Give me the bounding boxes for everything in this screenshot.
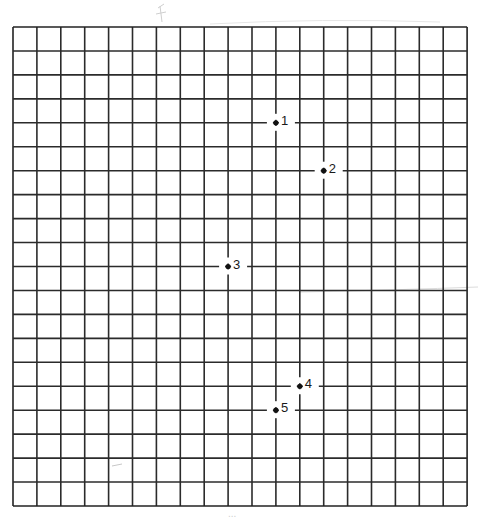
point-dot-icon bbox=[273, 120, 278, 125]
point-dot-icon bbox=[226, 264, 231, 269]
point-label: 2 bbox=[329, 161, 336, 176]
pencil-mark bbox=[210, 20, 440, 24]
point-label: 1 bbox=[281, 113, 288, 128]
footer-faint-text: ... bbox=[228, 508, 236, 519]
grid-figure: 12345 ... bbox=[0, 0, 481, 519]
pencil-mark bbox=[112, 464, 122, 466]
grid-canvas: 12345 ... bbox=[0, 0, 481, 519]
point-label: 5 bbox=[281, 400, 288, 415]
point-dot-icon bbox=[273, 408, 278, 413]
point-dot-icon bbox=[321, 168, 326, 173]
point-label: 3 bbox=[233, 257, 240, 272]
point-dot-icon bbox=[297, 384, 302, 389]
point-label: 4 bbox=[305, 376, 312, 391]
pencil-mark bbox=[156, 4, 166, 22]
faint-pencil-marks bbox=[112, 4, 478, 466]
